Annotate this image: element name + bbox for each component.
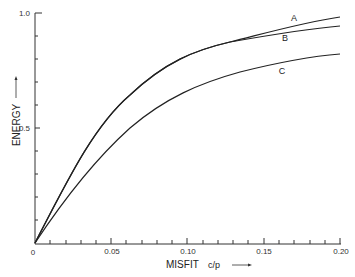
- curve-b: [35, 26, 340, 243]
- x-tick-0.05: 0.05: [104, 247, 120, 256]
- x-axis-arrow-icon: [232, 264, 252, 267]
- y-axis: [35, 13, 42, 244]
- curve-a: [35, 17, 340, 243]
- curve-label-c: C: [279, 66, 286, 76]
- x-tick-0.10: 0.10: [180, 247, 196, 256]
- x-tick-0.20: 0.20: [333, 247, 349, 256]
- x-tick-0.15: 0.15: [256, 247, 272, 256]
- x-tick-0: 0: [31, 248, 36, 257]
- y-axis-arrow-icon: [15, 76, 18, 98]
- curve-label-a: A: [291, 13, 297, 23]
- curve-c: [35, 54, 340, 243]
- y-axis-label: ENERGY: [11, 104, 22, 147]
- x-axis: [35, 238, 341, 244]
- curve-label-b: B: [282, 33, 288, 43]
- x-axis-label: MISFIT: [166, 259, 199, 270]
- y-axis-title: ENERGY: [11, 104, 22, 147]
- y-tick-1.0: 1.0: [19, 9, 31, 18]
- chart: 1.0 0.5 0 0.05 0.10 0.15 0.20 ENERGY MIS…: [0, 0, 355, 277]
- x-axis-unit: c/p: [208, 260, 220, 270]
